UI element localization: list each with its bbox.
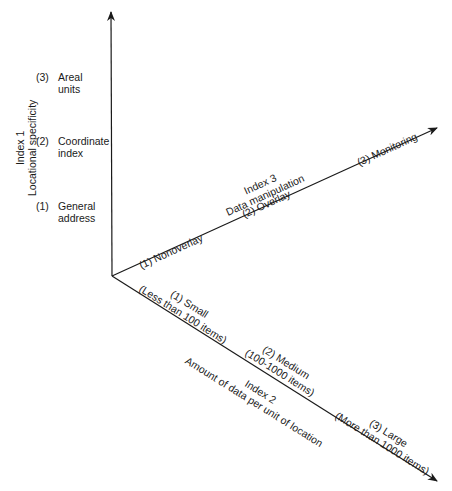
index1-title-block: Index 1 Locational specificity [14,100,38,196]
index1-subtitle: Locational specificity [26,100,38,196]
index1-axis [111,12,112,276]
index1-level-2: (2) Coordinate index [36,135,49,147]
index1-title: Index 1 [14,100,26,196]
index1-level-3: (3) Areal units [36,71,49,83]
index1-level-1: (1) General address [36,200,49,212]
